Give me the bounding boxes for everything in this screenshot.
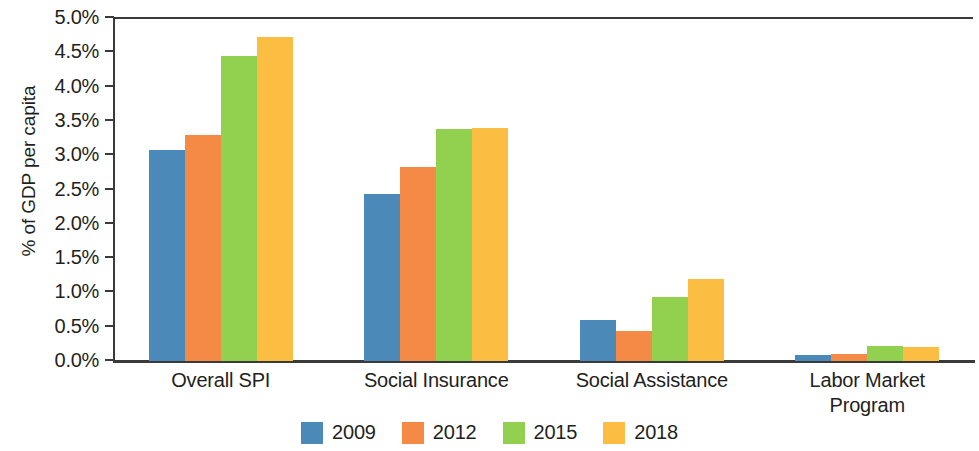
- y-axis-tick-label: 0.5%: [0, 314, 99, 337]
- x-axis-label: Social Insurance: [329, 368, 545, 393]
- bar: [472, 128, 508, 361]
- y-axis-tick: [105, 290, 114, 292]
- legend-item[interactable]: 2015: [503, 421, 578, 444]
- y-axis-tick: [105, 50, 114, 52]
- bar: [185, 135, 221, 361]
- y-axis-tick-label: 3.5%: [0, 108, 99, 131]
- legend: 2009201220152018: [0, 421, 979, 444]
- x-axis-label-line: Labor Market: [760, 368, 976, 393]
- y-axis-tick: [105, 85, 114, 87]
- bar: [688, 279, 724, 361]
- y-axis-tick-label: 0.0%: [0, 349, 99, 372]
- bar: [436, 129, 472, 361]
- x-axis-label-line: Social Assistance: [544, 368, 760, 393]
- x-axis-label-line: Overall SPI: [113, 368, 329, 393]
- legend-item[interactable]: 2009: [301, 421, 376, 444]
- y-axis-tick-label: 5.0%: [0, 6, 99, 29]
- bar: [257, 37, 293, 361]
- bar: [580, 320, 616, 361]
- y-axis-tick-label: 2.5%: [0, 177, 99, 200]
- bar-group: [544, 17, 760, 361]
- y-axis-tick: [105, 222, 114, 224]
- legend-label: 2015: [534, 421, 578, 444]
- legend-swatch-icon: [503, 422, 525, 444]
- x-axis-label: Labor MarketProgram: [760, 368, 976, 418]
- legend-swatch-icon: [301, 422, 323, 444]
- y-axis-tick-label: 4.5%: [0, 40, 99, 63]
- bar: [221, 56, 257, 361]
- y-axis-tick: [105, 188, 114, 190]
- bars-layer: [113, 17, 975, 361]
- y-axis-tick: [105, 256, 114, 258]
- y-axis-tick: [105, 16, 114, 18]
- y-axis-tick-label: 4.0%: [0, 74, 99, 97]
- legend-item[interactable]: 2012: [402, 421, 477, 444]
- bar: [652, 297, 688, 361]
- bar: [616, 331, 652, 361]
- x-axis-label-line: Social Insurance: [329, 368, 545, 393]
- legend-item[interactable]: 2018: [603, 421, 678, 444]
- y-axis-tick: [105, 359, 114, 361]
- y-axis-tick-label: 1.0%: [0, 280, 99, 303]
- bar: [867, 346, 903, 361]
- bar-chart: % of GDP per capita Overall SPISocial In…: [0, 0, 979, 451]
- legend-swatch-icon: [402, 422, 424, 444]
- x-axis-label-line: Program: [760, 393, 976, 418]
- y-axis-tick-label: 1.5%: [0, 246, 99, 269]
- bar-group: [329, 17, 545, 361]
- bar: [903, 347, 939, 361]
- x-axis-labels: Overall SPISocial InsuranceSocial Assist…: [113, 368, 975, 426]
- x-axis-label: Social Assistance: [544, 368, 760, 393]
- bar-group: [113, 17, 329, 361]
- y-axis-tick: [105, 153, 114, 155]
- bar-group: [760, 17, 976, 361]
- bar: [400, 167, 436, 361]
- legend-label: 2009: [332, 421, 376, 444]
- bar: [795, 355, 831, 361]
- x-axis-label: Overall SPI: [113, 368, 329, 393]
- y-axis-tick: [105, 325, 114, 327]
- bar: [364, 194, 400, 361]
- legend-label: 2018: [634, 421, 678, 444]
- legend-swatch-icon: [603, 422, 625, 444]
- bar: [831, 354, 867, 361]
- y-axis-tick: [105, 119, 114, 121]
- y-axis-tick-label: 2.0%: [0, 211, 99, 234]
- y-axis-tick-label: 3.0%: [0, 143, 99, 166]
- legend-label: 2012: [433, 421, 477, 444]
- bar: [149, 150, 185, 361]
